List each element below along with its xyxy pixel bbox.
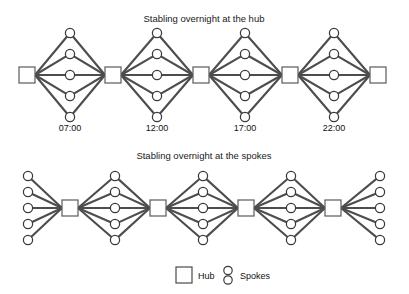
spoke-node [198,171,207,180]
time-label: 22:00 [323,123,346,133]
spoke-node [110,171,119,180]
spoke-node [329,28,338,37]
hub-node [370,67,386,83]
spoke-node [152,28,161,37]
spoke-node [110,187,119,196]
panel-hub-title: Stabling overnight at the hub [144,13,265,24]
hub-node [105,67,121,83]
hub-node [150,200,166,216]
spoke-node [240,70,249,79]
legend-spoke-circle-top [224,266,232,274]
hub-node [193,67,209,83]
spoke-node [329,112,338,121]
spoke-node [152,91,161,100]
hub-node [19,67,35,83]
spoke-node [152,49,161,58]
spoke-node [152,70,161,79]
spoke-node [198,219,207,228]
panel-spokes-title: Stabling overnight at the spokes [136,150,271,161]
spoke-node [23,235,32,244]
spoke-node [152,112,161,121]
spoke-node [375,187,384,196]
spoke-node [240,49,249,58]
spoke-node [65,112,74,121]
spoke-node [375,203,384,212]
time-label: 17:00 [234,123,257,133]
spoke-node [198,203,207,212]
spoke-node [23,203,32,212]
spoke-node [23,187,32,196]
legend-spoke-circle-bottom [224,276,232,284]
spoke-node [329,49,338,58]
spoke-node [240,112,249,121]
hub-node [282,67,298,83]
legend-hub-swatch [176,267,192,283]
spoke-node [286,187,295,196]
spoke-node [286,235,295,244]
hub-and-spoke-diagram: Stabling overnight at the hub 07:0012:00… [0,0,409,294]
spoke-node [110,203,119,212]
spoke-node [286,203,295,212]
legend-spokes-label: Spokes [240,271,271,281]
spoke-node [65,91,74,100]
hub-node [325,200,341,216]
spoke-node [375,171,384,180]
spoke-node [286,219,295,228]
spoke-node [198,235,207,244]
spoke-node [65,49,74,58]
spoke-node [65,28,74,37]
spoke-node [23,219,32,228]
spoke-node [375,235,384,244]
spoke-node [240,28,249,37]
spoke-node [23,171,32,180]
spoke-node [286,171,295,180]
legend-hub-label: Hub [198,271,215,281]
spoke-node [198,187,207,196]
spoke-node [375,219,384,228]
spoke-node [329,91,338,100]
spoke-node [240,91,249,100]
hub-node [62,200,78,216]
spoke-node [65,70,74,79]
time-label: 07:00 [59,123,82,133]
spoke-node [329,70,338,79]
hub-node [238,200,254,216]
spoke-node [110,219,119,228]
spoke-node [110,235,119,244]
time-label: 12:00 [146,123,169,133]
